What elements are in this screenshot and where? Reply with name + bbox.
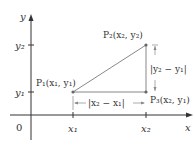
point-label-p2: P₂(x₂, y₂) xyxy=(103,30,143,40)
point-p2 xyxy=(144,43,147,46)
x-axis-arrow-icon xyxy=(186,113,193,118)
y-axis-arrow-icon xyxy=(29,14,34,21)
distance-formula-diagram: y x 0 y₂ y₁ x₁ x₂ P₁(x₁, y₁) P₂(x₂, y₂) … xyxy=(0,0,195,151)
y-axis-label: y xyxy=(19,11,26,22)
tick-label-y1: y₁ xyxy=(14,87,25,98)
point-p1 xyxy=(71,90,74,93)
x-axis-label: x xyxy=(185,122,191,133)
tick-label-x2: x₂ xyxy=(141,123,151,134)
hypotenuse xyxy=(73,45,146,92)
vertical-distance-label: |y₂ − y₁| xyxy=(150,64,187,75)
tick-label-x1: x₁ xyxy=(68,123,78,134)
horizontal-distance-label: |x₂ − x₁| xyxy=(88,98,125,109)
origin-label: 0 xyxy=(16,122,22,133)
tick-label-y2: y₂ xyxy=(14,40,25,51)
point-label-p1: P₁(x₁, y₁) xyxy=(36,78,76,88)
point-label-p3: P₃(x₂, y₁) xyxy=(150,95,190,105)
point-p3 xyxy=(144,90,147,93)
